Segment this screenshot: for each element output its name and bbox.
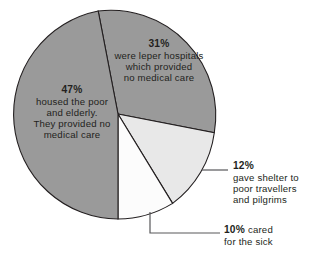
pie-label-percent: 12% <box>233 160 313 172</box>
pie-label-line: gave shelter to <box>233 172 313 183</box>
pie-label-line: They provided no <box>20 118 124 129</box>
pie-label-line: and pilgrims <box>233 194 313 205</box>
pie-label-line: no medical care <box>106 72 212 83</box>
pie-label-cared-for-sick: 10%cared for the sick <box>224 224 312 247</box>
pie-label-percent: 47% <box>20 84 124 96</box>
pie-label-line: housed the poor <box>20 96 124 107</box>
pie-label-line: poor travellers <box>233 183 313 194</box>
pie-label-percent: 10% <box>224 224 245 235</box>
pie-label-line: were leper hospitals <box>106 50 212 61</box>
pie-label-shelter-travellers: 12% gave shelter to poor travellers and … <box>233 160 313 205</box>
pie-label-percent: 31% <box>106 38 212 50</box>
pie-label-line: which provided <box>106 61 212 72</box>
leader-line-10-percent <box>150 212 220 233</box>
pie-label-line: and elderly. <box>20 107 124 118</box>
pie-chart-figure: 31% were leper hospitals which provided … <box>0 0 314 256</box>
pie-label-line: for the sick <box>224 236 312 247</box>
pie-label-line: medical care <box>20 129 124 140</box>
pie-label-housed-poor-elderly: 47% housed the poor and elderly. They pr… <box>20 84 124 140</box>
pie-label-leper-hospitals: 31% were leper hospitals which provided … <box>106 38 212 83</box>
pie-label-line-inline: cared <box>245 224 273 235</box>
